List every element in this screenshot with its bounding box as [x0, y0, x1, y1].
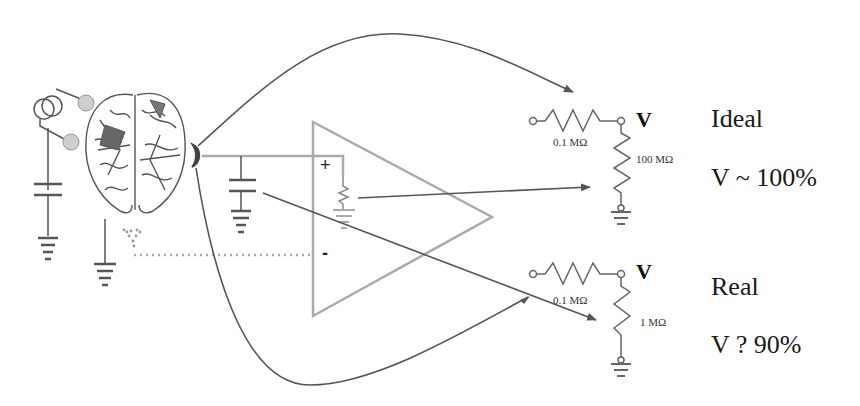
arrow-top-curve: [198, 34, 573, 146]
real-load-resistor-label: 1 MΩ: [640, 316, 666, 328]
real-result: V ? 90%: [711, 330, 802, 360]
real-title: Real: [711, 272, 759, 302]
ideal-circuit: [530, 110, 631, 211]
ground-icon: [611, 364, 631, 376]
ideal-node-v-label: V: [636, 107, 652, 133]
ideal-result: V ~ 100%: [711, 163, 817, 193]
brain-shading: [150, 100, 165, 118]
ideal-title: Ideal: [711, 104, 763, 134]
ground-icon: [231, 211, 251, 232]
brain-icon: [86, 93, 185, 212]
op-amp-plus-label: +: [320, 155, 331, 176]
ground-icon: [38, 238, 58, 259]
ground-icon: [94, 219, 116, 285]
real-node-v-label: V: [636, 259, 652, 285]
op-amp-triangle: [313, 122, 492, 316]
arrow-bottom-curve: [196, 168, 528, 385]
ideal-load-resistor-label: 100 MΩ: [636, 153, 673, 165]
ground-icon: [611, 212, 631, 224]
op-amp-minus-label: -: [322, 243, 328, 264]
capacitor-icon: [229, 156, 256, 211]
electrode-icon: [78, 95, 94, 111]
ideal-series-resistor-label: 0.1 MΩ: [553, 136, 587, 148]
electrode-icon: [63, 134, 79, 150]
reference-dots: [123, 229, 142, 248]
capacitor-icon: [34, 184, 62, 236]
arrow-head: [520, 296, 530, 304]
real-series-resistor-label: 0.1 MΩ: [553, 294, 587, 306]
input-resistor-icon: [339, 175, 348, 210]
crescent-electrode-icon: [192, 144, 200, 167]
arrow-to-ideal: [358, 187, 590, 198]
ground-icon: [333, 210, 355, 228]
